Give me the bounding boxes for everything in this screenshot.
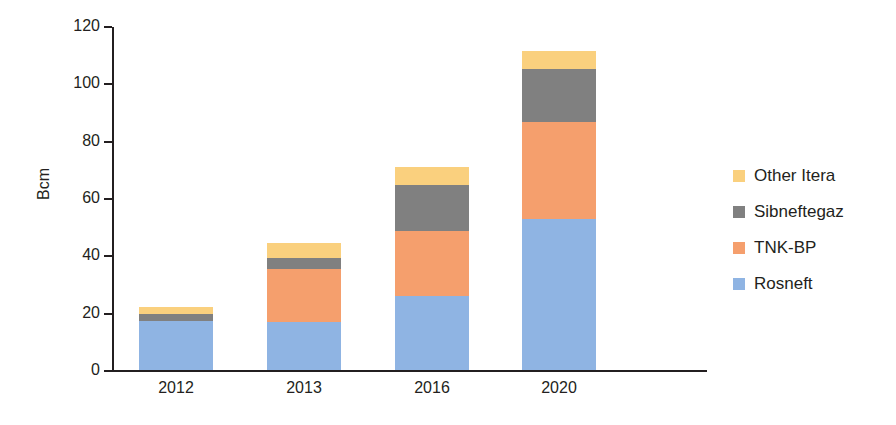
y-axis-tick bbox=[104, 370, 112, 372]
legend-item-label: Other Itera bbox=[754, 166, 835, 186]
y-axis-tick bbox=[104, 83, 112, 85]
y-axis-title: Bcm bbox=[35, 154, 53, 214]
y-axis-tick-label-text: 20 bbox=[58, 305, 100, 321]
y-axis-tick-label: 0 bbox=[52, 362, 100, 378]
y-axis-tick-label: 20 bbox=[52, 305, 100, 321]
y-axis-tick-label: 120 bbox=[52, 18, 100, 34]
y-axis-tick-label-text: 80 bbox=[58, 133, 100, 149]
bar-segment-other-itera[interactable] bbox=[395, 167, 469, 184]
y-axis-tick-label: 60 bbox=[52, 190, 100, 206]
y-axis-tick-label-text: 100 bbox=[58, 75, 100, 91]
x-axis-tick-label: 2012 bbox=[126, 379, 226, 397]
y-axis-tick-label-text: 120 bbox=[58, 18, 100, 34]
y-axis-tick-label: 40 bbox=[52, 247, 100, 263]
legend-item-other-itera[interactable]: Other Itera bbox=[733, 158, 844, 194]
bar-group[interactable] bbox=[395, 0, 469, 425]
x-axis-tick-label: 2020 bbox=[509, 379, 609, 397]
bar-group[interactable] bbox=[267, 0, 341, 425]
x-axis-tick-label: 2013 bbox=[254, 379, 354, 397]
bar-group[interactable] bbox=[139, 0, 213, 425]
y-axis-tick-label: 100 bbox=[52, 75, 100, 91]
bar-segment-tnk-bp[interactable] bbox=[522, 122, 596, 219]
bar-segment-rosneft[interactable] bbox=[267, 322, 341, 371]
legend-swatch-icon bbox=[733, 206, 745, 218]
legend-item-rosneft[interactable]: Rosneft bbox=[733, 266, 844, 302]
bar-segment-rosneft[interactable] bbox=[139, 321, 213, 371]
legend-item-label: Rosneft bbox=[754, 274, 813, 294]
legend-item-tnk-bp[interactable]: TNK-BP bbox=[733, 230, 844, 266]
legend-item-sibneftegaz[interactable]: Sibneftegaz bbox=[733, 194, 844, 230]
y-axis-line bbox=[112, 27, 114, 372]
chart-legend: Other IteraSibneftegazTNK-BPRosneft bbox=[733, 158, 844, 302]
bar-segment-rosneft[interactable] bbox=[522, 219, 596, 371]
legend-item-label: Sibneftegaz bbox=[754, 202, 844, 222]
legend-swatch-icon bbox=[733, 170, 745, 182]
bar-segment-sibneftegaz[interactable] bbox=[395, 185, 469, 231]
bar-segment-sibneftegaz[interactable] bbox=[139, 314, 213, 321]
legend-item-label: TNK-BP bbox=[754, 238, 816, 258]
legend-swatch-icon bbox=[733, 242, 745, 254]
bar-segment-tnk-bp[interactable] bbox=[395, 231, 469, 297]
y-axis-tick-label-text: 60 bbox=[58, 190, 100, 206]
y-axis-tick bbox=[104, 141, 112, 143]
x-axis-tick-label: 2016 bbox=[382, 379, 482, 397]
bar-group[interactable] bbox=[522, 0, 596, 425]
y-axis-tick-label-text: 0 bbox=[58, 362, 100, 378]
y-axis-tick bbox=[104, 255, 112, 257]
y-axis-tick-label: 80 bbox=[52, 133, 100, 149]
bar-segment-sibneftegaz[interactable] bbox=[267, 258, 341, 269]
bar-segment-other-itera[interactable] bbox=[139, 307, 213, 314]
bar-segment-other-itera[interactable] bbox=[522, 51, 596, 68]
bar-segment-tnk-bp[interactable] bbox=[267, 269, 341, 322]
y-axis-tick bbox=[104, 198, 112, 200]
y-axis-tick bbox=[104, 26, 112, 28]
y-axis-tick-label-text: 40 bbox=[58, 247, 100, 263]
bar-segment-other-itera[interactable] bbox=[267, 243, 341, 257]
legend-swatch-icon bbox=[733, 278, 745, 290]
stacked-bar-chart: Bcm 020406080100120 2012201320162020 Oth… bbox=[0, 0, 896, 425]
x-axis-line bbox=[112, 370, 707, 372]
y-axis-tick bbox=[104, 313, 112, 315]
bar-segment-rosneft[interactable] bbox=[395, 296, 469, 371]
bar-segment-sibneftegaz[interactable] bbox=[522, 69, 596, 122]
